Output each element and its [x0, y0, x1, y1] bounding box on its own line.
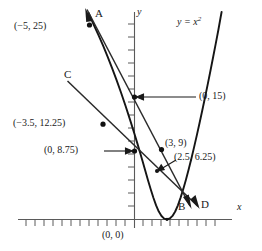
leader-arrow-0-15 [137, 94, 144, 100]
curve-equation-exponent: 2 [198, 15, 202, 23]
point-label-cd-yintercept: (0, 8.75) [44, 145, 78, 155]
point-label-ab-yintercept: (0, 15) [199, 91, 226, 101]
point-label-d-coord: (2.5, 6.25) [174, 152, 216, 162]
origin-label: (0, 0) [102, 230, 124, 240]
point-dot-c-on-curve [100, 122, 105, 127]
leader-arrow-0-875 [126, 148, 133, 154]
x-axis-ticks [26, 220, 215, 227]
point-label-c-coord: (−3.5, 12.25) [13, 118, 65, 128]
point-dot-origin [165, 218, 168, 221]
arrowhead-d [191, 195, 200, 209]
curve-equation-label: y = x2 [177, 16, 201, 27]
plotted-point-dots [87, 22, 169, 221]
y-axis-label: y [137, 7, 141, 17]
node-label-a: A [95, 8, 103, 19]
graph-figure: A (−5, 25) y y = x2 C (0, 15) (−3.5, 12.… [0, 0, 262, 251]
node-label-c: C [64, 69, 71, 80]
x-axis-label: x [237, 202, 241, 212]
node-label-d: D [201, 199, 209, 210]
arrowhead-a [85, 8, 92, 22]
point-dot-b [159, 147, 164, 152]
point-label-a-coord: (−5, 25) [14, 21, 46, 31]
point-dot-a [87, 22, 92, 27]
curve-equation-base: y = x [177, 16, 198, 27]
node-label-b: B [178, 201, 185, 212]
point-label-b-coord: (3, 9) [165, 138, 187, 148]
secant-line-ab [87, 10, 190, 207]
parabola-curve [89, 12, 222, 219]
